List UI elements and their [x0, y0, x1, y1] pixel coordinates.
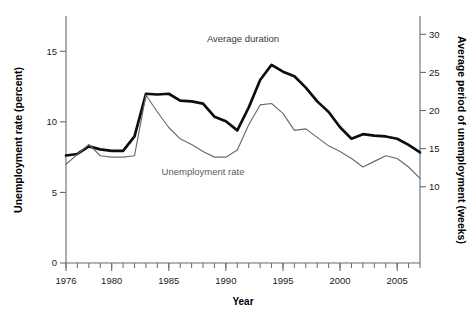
x-tick-label: 1980	[101, 275, 122, 286]
series-label-average-duration: Average duration	[207, 33, 279, 44]
left-tick-label: 10	[46, 116, 57, 127]
series-label-unemployment-rate: Unemployment rate	[162, 166, 245, 177]
x-axis-major-ticks: 1976198019851990199520002005	[55, 263, 407, 286]
right-tick-label: 25	[429, 67, 440, 78]
left-axis-ticks: 051015	[46, 46, 66, 269]
dual-axis-line-chart: 051015 1015202530 1976198019851990199520…	[0, 0, 468, 317]
x-tick-label: 1985	[158, 275, 179, 286]
left-tick-label: 15	[46, 46, 57, 57]
x-tick-label: 1976	[55, 275, 76, 286]
left-axis-title: Unemployment rate (percent)	[12, 67, 24, 213]
left-tick-label: 0	[52, 257, 57, 268]
right-tick-label: 20	[429, 105, 440, 116]
right-tick-label: 10	[429, 181, 440, 192]
left-tick-label: 5	[52, 187, 57, 198]
right-tick-label: 15	[429, 143, 440, 154]
x-axis-title: Year	[232, 296, 253, 307]
chart-container: 051015 1015202530 1976198019851990199520…	[0, 0, 468, 317]
right-axis-title: Average period of unemployment (weeks)	[456, 36, 468, 244]
x-tick-label: 2000	[329, 275, 350, 286]
x-tick-label: 1990	[215, 275, 236, 286]
right-tick-label: 30	[429, 29, 440, 40]
x-tick-label: 2005	[387, 275, 408, 286]
right-axis-ticks: 1015202530	[420, 29, 440, 192]
x-tick-label: 1995	[272, 275, 293, 286]
series-line-average-duration	[66, 65, 420, 156]
x-axis-minor-ticks	[66, 263, 420, 268]
